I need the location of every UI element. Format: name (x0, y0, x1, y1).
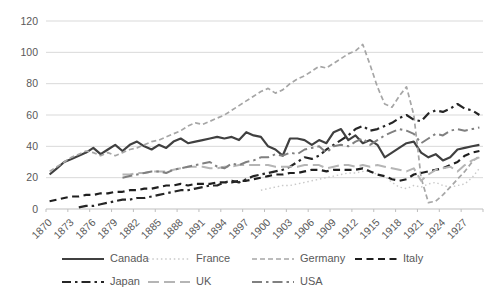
legend-label-japan: Japan (110, 276, 140, 287)
y-axis-tick-label: 0 (32, 203, 38, 215)
x-axis-tick-label: 1888 (160, 216, 185, 241)
legend-item-france: France (148, 253, 252, 264)
legend-label-france: France (196, 253, 230, 264)
x-axis-tick-label: 1885 (138, 216, 163, 241)
x-axis-tick-label: 1903 (269, 216, 294, 241)
y-axis-tick-label: 40 (26, 140, 38, 152)
legend-label-usa: USA (300, 276, 323, 287)
legend-marker-france (148, 256, 190, 262)
legend-marker-japan (62, 279, 104, 285)
x-axis-tick-label: 1897 (226, 216, 251, 241)
x-axis-tick-label: 1891 (182, 216, 207, 241)
x-axis-tick-label: 1921 (401, 216, 426, 241)
legend-row: CanadaFranceGermanyItaly (0, 247, 492, 270)
x-axis-tick-label: 1900 (248, 216, 273, 241)
y-axis-tick-label: 100 (20, 46, 38, 58)
x-axis-tick-label: 1918 (379, 216, 404, 241)
legend-item-japan: Japan (62, 276, 148, 287)
x-axis-tick-label: 1909 (313, 216, 338, 241)
y-axis-tick-label: 120 (20, 15, 38, 27)
legend-marker-uk (148, 279, 190, 285)
x-axis-tick-label: 1870 (29, 216, 54, 241)
legend-row: JapanUKUSA (0, 270, 492, 293)
line-chart: 0204060801001201870187318761879188218851… (0, 0, 492, 247)
y-axis-tick-label: 20 (26, 171, 38, 183)
series-line-canada (50, 129, 480, 174)
x-axis-tick-label: 1912 (335, 216, 360, 241)
legend-item-canada: Canada (62, 253, 148, 264)
series-line-italy (50, 151, 480, 201)
x-axis-tick-label: 1879 (95, 216, 120, 241)
chart-legend: CanadaFranceGermanyItalyJapanUKUSA (0, 247, 492, 293)
x-axis-tick-label: 1924 (422, 216, 447, 241)
legend-item-italy: Italy (355, 253, 423, 264)
legend-item-usa: USA (252, 276, 355, 287)
legend-marker-usa (252, 279, 294, 285)
legend-item-germany: Germany (252, 253, 355, 264)
x-axis-tick-label: 1873 (51, 216, 76, 241)
x-axis-tick-label: 1876 (73, 216, 98, 241)
legend-marker-germany (252, 256, 294, 262)
line-chart-panel: 0204060801001201870187318761879188218851… (0, 0, 492, 301)
legend-label-uk: UK (196, 276, 211, 287)
y-axis-tick-label: 80 (26, 77, 38, 89)
legend-label-germany: Germany (300, 253, 345, 264)
legend-label-canada: Canada (110, 253, 149, 264)
series-line-germany (50, 45, 480, 203)
legend-item-uk: UK (148, 276, 252, 287)
x-axis-tick-label: 1915 (357, 216, 382, 241)
x-axis-tick-label: 1894 (204, 216, 229, 241)
legend-label-italy: Italy (403, 253, 423, 264)
y-axis-tick-label: 60 (26, 109, 38, 121)
x-axis-tick-label: 1906 (291, 216, 316, 241)
x-axis-tick-label: 1927 (444, 216, 469, 241)
x-axis-tick-label: 1882 (116, 216, 141, 241)
legend-marker-canada (62, 256, 104, 262)
legend-marker-italy (355, 256, 397, 262)
